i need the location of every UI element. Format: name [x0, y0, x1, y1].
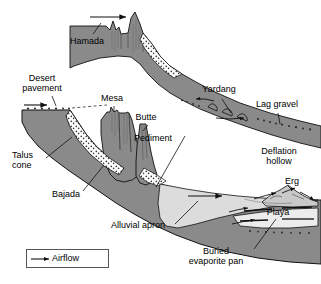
label-erg: Erg [277, 176, 307, 186]
desert-pavement-clasts [27, 107, 70, 109]
label-deflation-hollow: Deflation hollow [246, 146, 312, 166]
label-mesa: Mesa [92, 93, 132, 103]
label-desert-pavement: Desert pavement [6, 73, 78, 93]
correlation-dashed-line [72, 105, 107, 108]
label-alluvial-apron: Alluvial apron [96, 220, 180, 230]
label-bajada: Bajada [52, 189, 100, 199]
label-butte: Butte [127, 112, 165, 122]
legend-airflow-label: Airflow [52, 253, 79, 263]
leader-pediment [156, 136, 185, 187]
label-buried-evaporite-pan: Buried evaporite pan [170, 246, 262, 266]
label-pediment: Pediment [122, 133, 184, 143]
desert-landforms-diagram: Hamada Desert pavement Mesa Butte Pedime… [0, 0, 321, 284]
leader-desert-pavement [52, 96, 56, 106]
label-hamada: Hamada [62, 36, 112, 46]
label-talus-cone: Talus cone [12, 150, 56, 170]
label-yardang: Yardang [192, 84, 246, 94]
label-lag-gravel: Lag gravel [246, 99, 308, 109]
legend-airflow-arrow-icon [31, 255, 53, 263]
label-playa: Playa [258, 207, 298, 217]
